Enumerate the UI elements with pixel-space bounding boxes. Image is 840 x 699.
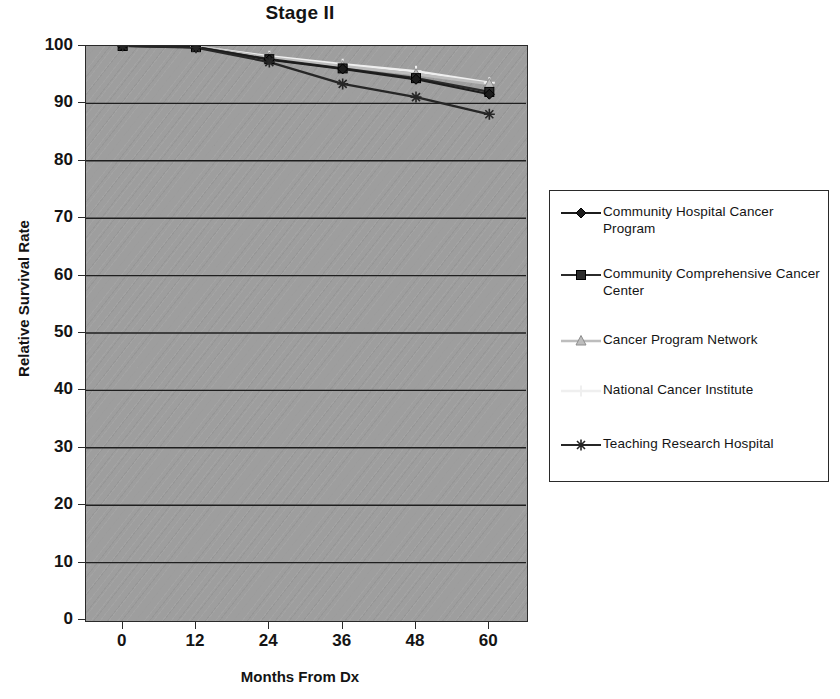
y-tick-label: 20 xyxy=(13,495,73,512)
asterisk-marker-icon xyxy=(559,436,603,454)
y-tick-label: 0 xyxy=(13,610,73,627)
x-tick-mark xyxy=(122,622,123,629)
x-tick-label: 36 xyxy=(317,632,367,649)
x-tick-mark xyxy=(415,622,416,629)
y-tick-mark xyxy=(78,619,85,620)
legend-item[interactable]: Teaching Research Hospital xyxy=(559,435,825,454)
plot-series-svg xyxy=(86,46,526,620)
chart-title: Stage II xyxy=(150,2,450,24)
y-tick-mark xyxy=(78,562,85,563)
legend-item-label: Community Comprehensive Cancer Center xyxy=(603,265,825,299)
y-tick-mark xyxy=(78,447,85,448)
legend-item[interactable]: Community Hospital Cancer Program xyxy=(559,203,825,237)
x-tick-label: 0 xyxy=(97,632,147,649)
y-tick-mark xyxy=(78,275,85,276)
diamond-marker-icon xyxy=(559,204,603,222)
x-tick-mark xyxy=(268,622,269,629)
x-tick-label: 60 xyxy=(463,632,513,649)
y-tick-mark xyxy=(78,389,85,390)
x-tick-label: 48 xyxy=(390,632,440,649)
y-tick-label: 30 xyxy=(13,438,73,455)
y-axis-title: Relative Survival Rate xyxy=(15,184,32,414)
plot-area xyxy=(85,45,528,622)
y-tick-label: 100 xyxy=(13,36,73,53)
legend-item[interactable]: Community Comprehensive Cancer Center xyxy=(559,265,825,299)
triangle-marker-icon xyxy=(559,332,603,350)
y-tick-mark xyxy=(78,102,85,103)
y-tick-mark xyxy=(78,217,85,218)
y-tick-mark xyxy=(78,332,85,333)
chart-legend: Community Hospital Cancer ProgramCommuni… xyxy=(549,190,829,482)
y-tick-label: 80 xyxy=(13,151,73,168)
x-tick-mark xyxy=(488,622,489,629)
legend-item-label: Community Hospital Cancer Program xyxy=(603,203,825,237)
legend-item[interactable]: Cancer Program Network xyxy=(559,331,825,350)
y-tick-mark xyxy=(78,504,85,505)
chart-figure: Stage II 0102030405060708090100 01224364… xyxy=(0,0,840,699)
legend-item-label: National Cancer Institute xyxy=(603,381,825,398)
y-tick-label: 90 xyxy=(13,93,73,110)
y-tick-label: 10 xyxy=(13,553,73,570)
x-tick-label: 12 xyxy=(170,632,220,649)
x-axis-title: Months From Dx xyxy=(150,668,450,685)
legend-item-label: Cancer Program Network xyxy=(603,331,825,348)
square-marker-icon xyxy=(559,266,603,284)
y-tick-mark xyxy=(78,45,85,46)
x-tick-mark xyxy=(195,622,196,629)
x-tick-label: 24 xyxy=(243,632,293,649)
cross-marker-icon xyxy=(559,382,603,400)
legend-item[interactable]: National Cancer Institute xyxy=(559,381,825,400)
legend-item-label: Teaching Research Hospital xyxy=(603,435,825,452)
y-tick-mark xyxy=(78,160,85,161)
x-tick-mark xyxy=(342,622,343,629)
